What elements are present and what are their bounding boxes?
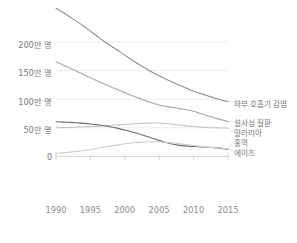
leader-line-malaria (228, 128, 233, 131)
line-chart: 200만 명 150만 명 100만 명 50만 명 0 (0, 0, 297, 243)
series-label-lri: 하부 호흡기 감염 (234, 98, 287, 109)
series-line-lri (56, 8, 228, 102)
leader-lines (228, 102, 233, 152)
leader-line-measles (228, 142, 233, 150)
leader-line-aids (228, 149, 233, 152)
series-line-measles (56, 122, 228, 149)
axis-lines (56, 152, 228, 160)
x-axis-label-1995: 1995 (71, 205, 109, 215)
x-axis-label-2000: 2000 (106, 205, 144, 215)
series-line-aids (56, 142, 228, 154)
x-axis-label-2005: 2005 (140, 205, 178, 215)
series-group (56, 8, 228, 153)
x-axis-label-1990: 1990 (37, 205, 75, 215)
x-axis-label-2015: 2015 (209, 205, 247, 215)
gridlines (56, 42, 228, 128)
series-label-aids: 에이즈 (234, 147, 255, 158)
x-axis-label-2010: 2010 (175, 205, 213, 215)
